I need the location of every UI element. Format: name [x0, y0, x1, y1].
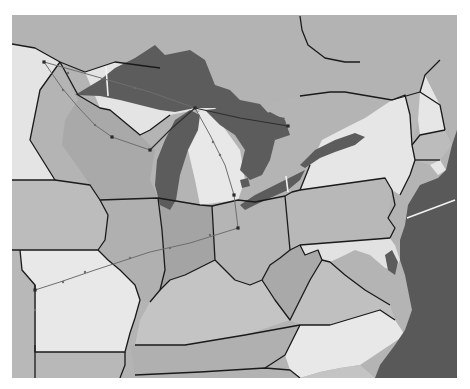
route-tick-icon — [209, 234, 211, 236]
route-tick-icon — [62, 89, 64, 91]
route-tick-icon — [212, 141, 214, 143]
node-lake-huron-east — [286, 124, 289, 127]
route-tick-icon — [94, 124, 96, 126]
node-missouri-border — [33, 288, 36, 291]
route-tick-icon — [84, 271, 86, 273]
route-tick-icon — [169, 247, 171, 249]
map-canvas[interactable] — [0, 0, 470, 389]
node-green-bay — [148, 148, 151, 151]
node-duluth — [42, 60, 45, 63]
node-toledo — [232, 193, 235, 196]
route-tick-icon — [34, 309, 36, 311]
route-tick-icon — [219, 154, 221, 156]
node-mackinac — [193, 106, 196, 109]
route-tick-icon — [134, 87, 136, 89]
node-columbus — [236, 226, 239, 229]
region-arkansas — [35, 352, 125, 378]
map-container: Great Lakes and Northeastern United Stat… — [0, 0, 470, 389]
route-tick-icon — [129, 257, 131, 259]
route-tick-icon — [62, 281, 64, 283]
node-wisconsin-stop — [110, 135, 113, 138]
route-tick-icon — [67, 72, 69, 74]
